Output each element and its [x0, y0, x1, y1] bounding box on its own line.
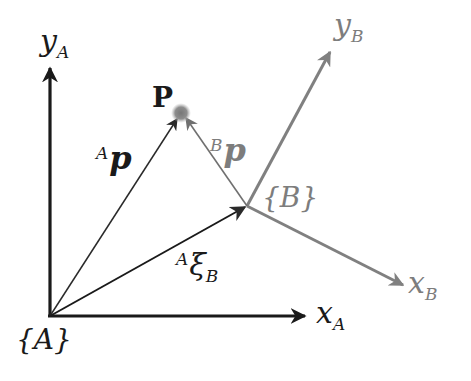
x-b-base: x [408, 265, 425, 300]
a-p-base: p [109, 139, 131, 177]
point-p-dot [171, 103, 191, 123]
b-p-sup: B [210, 135, 223, 155]
x-b-sub: B [425, 284, 438, 304]
point-p-label: P [152, 84, 173, 112]
frame-a-origin-label: {A} [16, 326, 72, 354]
a-xi-b-sup: A [176, 249, 188, 269]
frame-a-y-axis-label: yA [40, 26, 69, 56]
y-b-sub: B [351, 26, 364, 46]
a-xi-b-base: ξ [189, 247, 206, 282]
frame-b-x-axis-label: xB [408, 268, 437, 298]
x-a-sub: A [333, 314, 345, 334]
a-xi-b-sub: B [206, 266, 219, 286]
y-a-sub: A [57, 42, 69, 62]
y-a-base: y [40, 23, 57, 58]
frame-b-origin-label: {B} [262, 184, 318, 212]
frame-a-x-axis-label: xA [316, 298, 345, 328]
y-b-base: y [334, 7, 351, 42]
x-a-base: x [316, 295, 333, 330]
vector-a-xi-b-label: AξB [176, 250, 218, 280]
vector-a-p-label: Ap [96, 142, 132, 174]
frame-b-x-axis [247, 206, 403, 285]
frame-b-y-axis-label: yB [334, 10, 363, 40]
a-p-sup: A [96, 143, 108, 163]
vector-b-p-label: Bp [210, 134, 246, 166]
b-p-base: p [224, 131, 246, 169]
